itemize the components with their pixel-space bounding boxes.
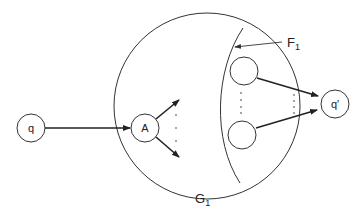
ellipsis-qprime-edges xyxy=(293,94,295,114)
region-g1-circle xyxy=(114,13,300,199)
edge-inner-top-to-qprime xyxy=(257,78,318,96)
edge-inner-bottom-to-qprime xyxy=(256,110,317,128)
node-q-prime-label: q′ xyxy=(331,98,339,110)
node-a-label: A xyxy=(141,122,149,134)
node-a: A xyxy=(131,114,159,142)
ellipsis-a-branches xyxy=(175,114,177,142)
node-inner-bottom xyxy=(228,121,256,149)
edge-a-down xyxy=(156,137,179,157)
f1-pointer-arrow xyxy=(235,42,282,47)
node-q: q xyxy=(17,114,45,142)
label-f1: F1 xyxy=(287,35,300,52)
node-inner-top xyxy=(230,57,258,85)
ellipsis-inner-nodes xyxy=(240,92,242,114)
node-q-prime: q′ xyxy=(321,90,349,118)
label-g1: G1 xyxy=(195,191,210,208)
region-f1-boundary xyxy=(220,28,243,183)
diagram-canvas: q A q′ F1 G1 xyxy=(0,0,360,215)
node-q-label: q xyxy=(28,122,34,134)
edge-a-up xyxy=(156,100,179,119)
